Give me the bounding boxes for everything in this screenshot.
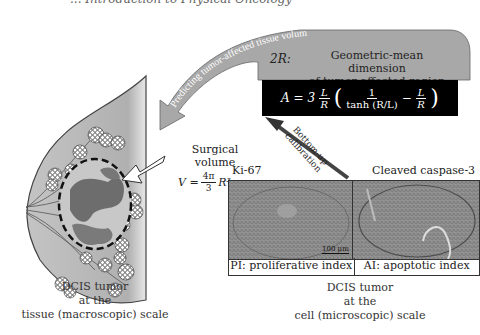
surgical-line-1: Surgical [182, 143, 248, 156]
volume-lhs: V = [178, 176, 199, 189]
frac-den: R [321, 99, 329, 110]
index-labels: PI: proliferative index AI: apoptotic in… [228, 258, 480, 276]
frac-den: 3 [206, 183, 212, 194]
frac-num: L [416, 87, 427, 99]
description-line-1: Geometric-mean dimension [302, 49, 452, 75]
formula-frac-l-over-r-2: L R [416, 87, 427, 110]
breast-illustration [26, 76, 146, 303]
apoptotic-index-label: AI: apoptotic index [355, 258, 480, 275]
two-r-symbol: 2R: [270, 52, 291, 66]
micro-caption-line-1: DCIS tumor [285, 281, 435, 295]
formula-frac-inverse-tanh: 1 tanh (R/L) [346, 87, 397, 110]
area-formula: A = 3 L R ( 1 tanh (R/L) − L R ) [262, 80, 458, 116]
ki67-title: Ki-67 [232, 164, 261, 177]
frac-den: tanh (R/L) [346, 99, 397, 110]
scale-bar: 100 μm [322, 245, 349, 254]
volume-formula: V = 4π 3 R³ [178, 171, 231, 194]
frac-num: L [319, 87, 330, 99]
caspase-micrograph [352, 180, 480, 260]
micro-caption-line-3: cell (microscopic) scale [285, 309, 435, 323]
macro-caption-line-3: tissue (macroscopic) scale [20, 308, 170, 322]
frac-num: 1 [367, 87, 377, 99]
macro-caption-line-1: DCIS tumor [20, 280, 170, 294]
proliferative-index-label: PI: proliferative index [229, 258, 355, 275]
macro-caption-line-2: at the [20, 294, 170, 308]
frac-den: R [417, 99, 425, 110]
minus-sign: − [402, 91, 412, 105]
formula-box: A = 3 L R ( 1 tanh (R/L) − L R ) [262, 80, 458, 116]
left-paren: ( [334, 87, 343, 109]
volume-frac: 4π 3 [201, 171, 217, 194]
micro-caption-line-2: at the [285, 295, 435, 309]
frac-num: 4π [201, 171, 217, 183]
caspase-title: Cleaved caspase-3 [372, 164, 475, 177]
formula-lhs: A = 3 [281, 91, 315, 105]
right-paren: ) [430, 87, 439, 109]
formula-frac-l-over-r: L R [319, 87, 330, 110]
micro-caption: DCIS tumor at the cell (microscopic) sca… [285, 281, 435, 323]
macro-caption: DCIS tumor at the tissue (macroscopic) s… [20, 280, 170, 322]
